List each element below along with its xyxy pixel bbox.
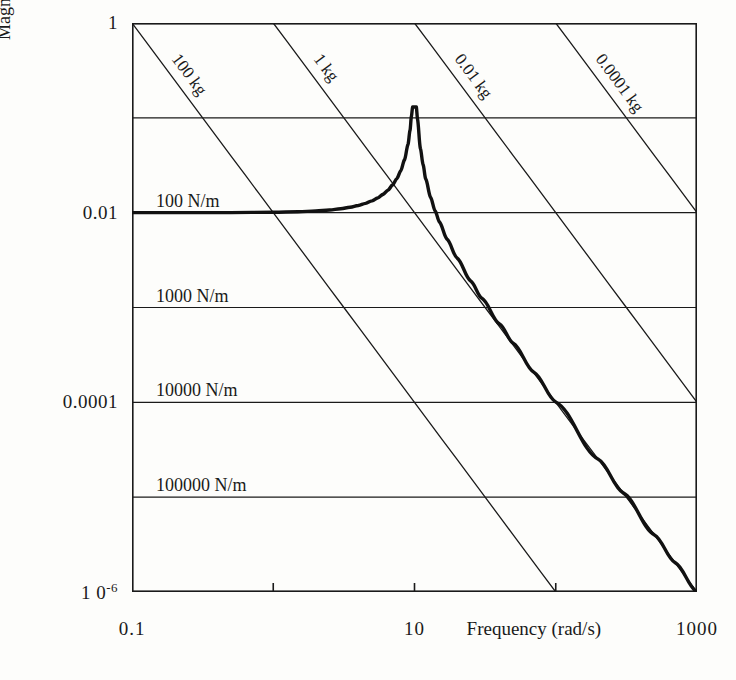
receptance-log-log-chart: Magnitude of receptance (m/N) 10.010.000… <box>0 0 736 680</box>
y-tick-label: 0.01 <box>83 202 118 224</box>
plot-svg <box>132 23 697 592</box>
y-tick-label-exponent: -6 <box>106 580 118 595</box>
plot-area <box>132 23 697 592</box>
y-tick-label: 1 <box>108 12 118 34</box>
y-tick-label: 1 0-6 <box>81 580 118 604</box>
stiffness-line-label: 1000 N/m <box>156 286 229 307</box>
x-tick-label: 1000 <box>676 618 718 640</box>
receptance-curve <box>132 107 697 592</box>
x-tick-label: 10 <box>404 618 425 640</box>
gridlines-group <box>132 118 697 497</box>
y-tick-label: 0.0001 <box>63 391 118 413</box>
stiffness-line-label: 100000 N/m <box>156 475 247 496</box>
stiffness-line-label: 100 N/m <box>156 191 220 212</box>
x-tick-label: 0.1 <box>119 618 146 640</box>
y-axis-title: Magnitude of receptance (m/N) <box>0 0 15 40</box>
stiffness-line-label: 10000 N/m <box>156 380 238 401</box>
x-axis-title: Frequency (rad/s) <box>467 618 602 640</box>
